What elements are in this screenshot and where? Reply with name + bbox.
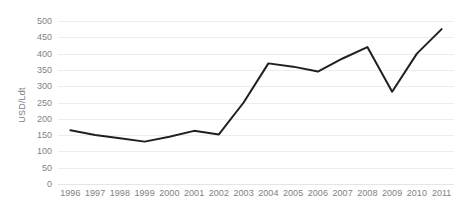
y-tick-label: 150 <box>12 130 52 140</box>
x-tick-label: 2011 <box>425 188 459 198</box>
x-axis-tick-labels: 1996199719981999200020012002200320042005… <box>58 188 454 206</box>
y-axis-tick-labels: 050100150200250300350400450500 <box>0 0 56 210</box>
y-tick-label: 200 <box>12 114 52 124</box>
plot-area <box>58 21 454 184</box>
y-tick-label: 350 <box>12 65 52 75</box>
y-tick-label: 250 <box>12 98 52 108</box>
y-tick-label: 300 <box>12 81 52 91</box>
gridline <box>58 184 454 185</box>
series-line-usd-per-ldt <box>58 21 454 184</box>
y-tick-label: 450 <box>12 32 52 42</box>
y-tick-label: 100 <box>12 146 52 156</box>
y-tick-label: 500 <box>12 16 52 26</box>
y-tick-label: 0 <box>12 179 52 189</box>
line-chart: USD/Ldt 050100150200250300350400450500 1… <box>0 0 463 210</box>
y-tick-label: 50 <box>12 163 52 173</box>
y-tick-label: 400 <box>12 49 52 59</box>
